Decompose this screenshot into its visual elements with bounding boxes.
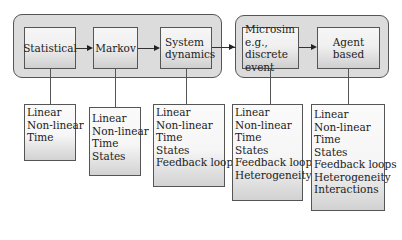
arrow-microsim-agent [299, 47, 311, 48]
connector-line [348, 69, 349, 104]
attribute-item: Time [156, 131, 222, 144]
node-label: Markov [95, 42, 136, 55]
attribute-item: Linear [92, 112, 138, 125]
node-label: Statistical [23, 42, 77, 55]
attribute-item: Non-linear [314, 121, 382, 134]
arrowhead-icon [229, 44, 235, 50]
arrowhead-icon [154, 45, 160, 51]
node-system-dynamics: System dynamics [160, 27, 212, 69]
attribute-item: Time [27, 131, 73, 144]
node-markov: Markov [93, 27, 138, 69]
node-microsim: Microsim e.g., discrete event [242, 27, 299, 69]
attribute-item: Heterogeneity [235, 169, 300, 182]
node-label-line: e.g., discrete [245, 36, 298, 61]
arrowhead-icon [87, 45, 93, 51]
attribute-item: Non-linear [27, 119, 73, 132]
attribute-item: Linear [235, 106, 300, 119]
arrow-statistical-markov [76, 48, 87, 49]
node-label-line: dynamics [165, 48, 215, 61]
node-label-line: Microsim [245, 23, 298, 36]
attributes-markov: Linear Non-linear Time States [89, 107, 141, 176]
arrowhead-icon [311, 44, 317, 50]
attribute-item: States [235, 144, 300, 157]
attribute-item: Time [235, 131, 300, 144]
attribute-item: States [314, 146, 382, 159]
attribute-item: Linear [314, 108, 382, 121]
attributes-system-dynamics: Linear Non-linear Time States Feedback l… [153, 104, 225, 187]
attribute-item: Feedback loops [314, 158, 382, 171]
attribute-item: Interactions [314, 183, 382, 196]
node-label-line: System [165, 36, 215, 49]
attribute-item: Non-linear [156, 119, 222, 132]
attribute-item: Heterogeneity [314, 171, 382, 184]
attribute-item: Linear [27, 106, 73, 119]
attribute-item: States [156, 144, 222, 157]
attributes-microsim: Linear Non-linear Time States Feedback l… [232, 104, 303, 201]
arrow-markov-sysdyn [138, 48, 154, 49]
connector-line [186, 69, 187, 104]
connector-line [50, 69, 51, 104]
node-agent-based: Agent based [317, 27, 380, 69]
attribute-item: Non-linear [92, 125, 138, 138]
attributes-statistical: Linear Non-linear Time [24, 104, 76, 161]
attribute-item: Linear [156, 106, 222, 119]
attribute-item: Time [314, 133, 382, 146]
connector-line [270, 69, 271, 104]
connector-line [115, 69, 116, 107]
attribute-item: Non-linear [235, 119, 300, 132]
attribute-item: Time [92, 137, 138, 150]
attribute-item: States [92, 150, 138, 163]
node-statistical: Statistical [24, 27, 76, 69]
node-label: Agent based [318, 36, 379, 61]
attributes-agent-based: Linear Non-linear Time States Feedback l… [311, 104, 385, 211]
attribute-item: Feedback loops [235, 156, 300, 169]
node-label-line: event [245, 61, 298, 74]
attribute-item: Feedback loops [156, 156, 222, 169]
